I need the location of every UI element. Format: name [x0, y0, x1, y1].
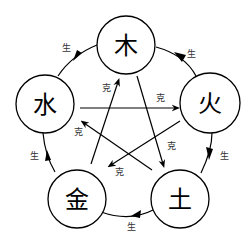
label-generating: 生 — [30, 150, 39, 161]
label-generating: 生 — [62, 42, 71, 53]
element-metal-char: 金 — [65, 186, 89, 214]
line-wood-to-earth — [137, 76, 163, 164]
arc-metal-to-water — [43, 133, 55, 172]
label-overcoming: 克 — [156, 93, 165, 103]
element-earth-char: 土 — [168, 186, 192, 214]
label-generating: 生 — [127, 221, 136, 232]
wu-xing-diagram: 木 火 土 金 水 生 生 生 生 生 克 克 克 克 克 — [0, 0, 252, 241]
label-generating: 生 — [187, 48, 196, 59]
element-water-char: 水 — [33, 91, 57, 119]
element-fire-char: 火 — [198, 90, 222, 118]
element-wood: 木 — [97, 16, 155, 74]
line-metal-to-wood — [91, 82, 118, 164]
label-overcoming: 克 — [102, 83, 111, 93]
arc-earth-to-metal — [101, 210, 153, 217]
element-water: 水 — [16, 75, 74, 133]
element-wood-char: 木 — [114, 32, 138, 60]
label-generating: 生 — [220, 150, 229, 161]
label-overcoming: 克 — [115, 167, 124, 177]
line-earth-to-water — [84, 123, 152, 170]
label-overcoming: 克 — [74, 127, 83, 137]
element-fire: 火 — [180, 73, 240, 133]
label-overcoming: 克 — [167, 141, 176, 151]
element-metal: 金 — [48, 170, 106, 228]
arrowhead-icon — [73, 50, 82, 61]
element-earth: 土 — [151, 170, 209, 228]
overcoming-cycle — [80, 76, 180, 170]
